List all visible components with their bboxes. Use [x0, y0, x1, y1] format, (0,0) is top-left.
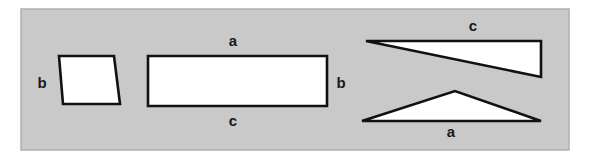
- figure-root: b a c b c a: [0, 0, 590, 160]
- shape-parallelogram: [59, 56, 120, 104]
- shape-rectangle: [148, 56, 327, 106]
- label-c-rectangle-bottom: c: [229, 112, 237, 129]
- geometry-figure: b a c b c a: [0, 0, 590, 160]
- label-b-parallelogram: b: [37, 74, 46, 91]
- label-c-triangle-top: c: [469, 17, 477, 34]
- label-a-rectangle-top: a: [229, 32, 238, 49]
- label-b-rectangle-right: b: [336, 74, 345, 91]
- label-a-triangle-bottom: a: [447, 123, 456, 140]
